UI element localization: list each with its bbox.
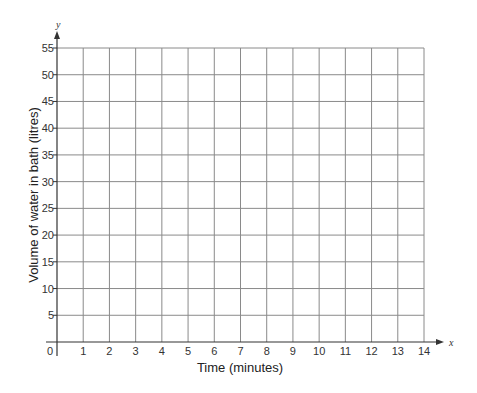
x-tick-label: 7 xyxy=(237,345,243,357)
x-tick-label: 14 xyxy=(418,345,430,357)
y-tick-label: 45 xyxy=(42,95,54,107)
y-axis-arrow-icon xyxy=(54,31,60,39)
y-tick-label: 25 xyxy=(42,202,54,214)
origin-label: 0 xyxy=(47,345,53,357)
y-tick-label: 15 xyxy=(42,256,54,268)
y-tick-label: 50 xyxy=(42,69,54,81)
blank-graph-grid: 1234567891011121314 51015202530354045505… xyxy=(0,0,477,393)
y-tick-labels: 510152025303540455055 xyxy=(42,42,54,321)
grid-lines xyxy=(57,48,424,342)
x-tick-label: 5 xyxy=(185,345,191,357)
x-tick-label: 10 xyxy=(313,345,325,357)
x-tick-label: 2 xyxy=(106,345,112,357)
y-tick-label: 30 xyxy=(42,176,54,188)
x-axis-variable: x xyxy=(448,337,454,348)
y-tick-label: 55 xyxy=(42,42,54,54)
y-tick-label: 35 xyxy=(42,149,54,161)
x-tick-label: 1 xyxy=(80,345,86,357)
x-tick-labels: 1234567891011121314 xyxy=(80,345,430,357)
x-tick-label: 9 xyxy=(290,345,296,357)
x-tick-label: 3 xyxy=(133,345,139,357)
y-axis-title: Volume of water in bath (litres) xyxy=(26,107,41,283)
y-tick-label: 20 xyxy=(42,229,54,241)
x-tick-label: 13 xyxy=(392,345,404,357)
x-tick-label: 4 xyxy=(159,345,165,357)
y-tick-label: 40 xyxy=(42,122,54,134)
y-tick-label: 5 xyxy=(48,309,54,321)
x-tick-label: 12 xyxy=(365,345,377,357)
y-tick-label: 10 xyxy=(42,283,54,295)
x-tick-label: 8 xyxy=(264,345,270,357)
x-axis-arrow-icon xyxy=(436,339,444,345)
axes xyxy=(46,31,444,356)
x-axis-title: Time (minutes) xyxy=(197,360,283,375)
y-axis-variable: y xyxy=(55,19,61,30)
x-tick-label: 6 xyxy=(211,345,217,357)
x-tick-label: 11 xyxy=(340,345,351,357)
